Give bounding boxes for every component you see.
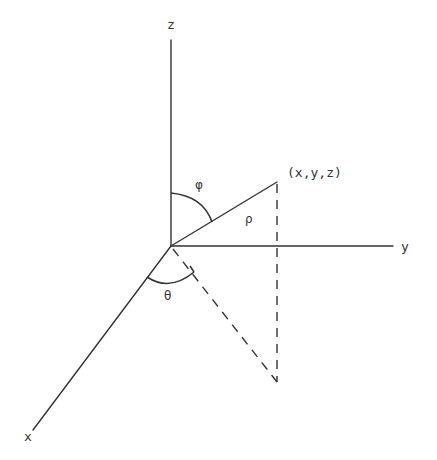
z-axis-label: z: [167, 18, 175, 31]
phi-angle-arc: [171, 193, 212, 222]
rho-label: ρ: [245, 213, 253, 225]
phi-label: φ: [195, 179, 203, 191]
theta-angle-arc: [147, 272, 194, 283]
x-axis-label: x: [24, 430, 32, 443]
theta-arc-tick: [190, 266, 194, 272]
rho-vector: [171, 182, 277, 246]
xy-plane-projection-line: [173, 249, 277, 382]
spherical-coordinates-diagram: [0, 0, 437, 460]
y-axis-label: y: [401, 240, 409, 253]
theta-label: θ: [164, 290, 171, 302]
x-axis: [33, 246, 171, 430]
point-label: (x,y,z): [287, 166, 342, 179]
